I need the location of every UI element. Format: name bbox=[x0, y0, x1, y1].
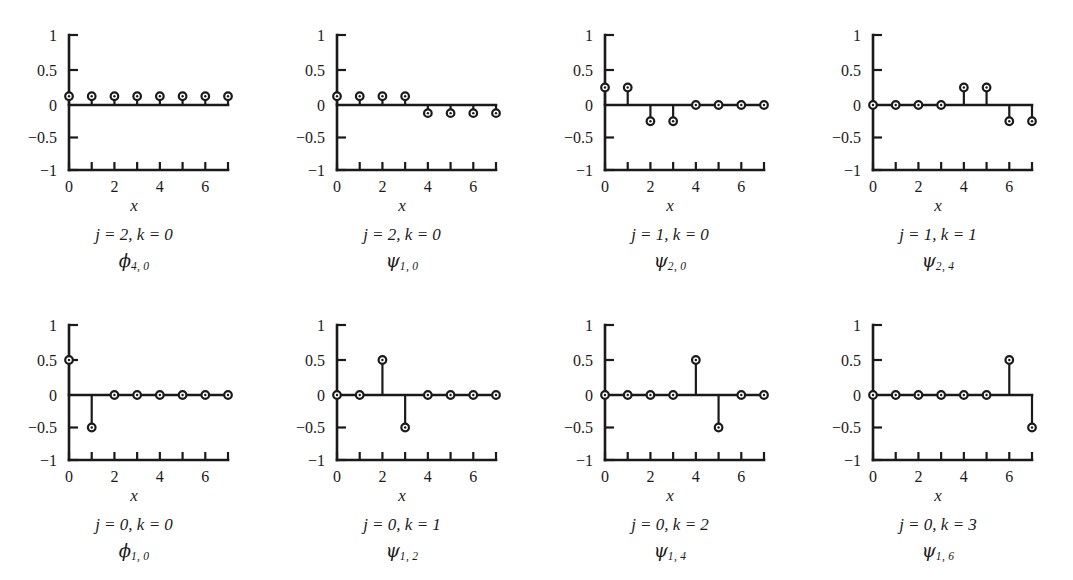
x-tick-label: 4 bbox=[156, 468, 164, 485]
stem-plot-panel: −1−0.500.510246xj = 2, k = 0ψ1, 0 bbox=[268, 0, 536, 290]
stem-plot-panel: −1−0.500.510246xj = 2, k = 0ϕ4, 0 bbox=[0, 0, 268, 290]
data-point-center bbox=[649, 120, 651, 122]
caption-greek-symbol: ϕ bbox=[119, 250, 131, 271]
y-tick-label: 1 bbox=[585, 317, 593, 334]
caption-subscript: 2, 0 bbox=[668, 260, 686, 272]
caption-scale-index: j = 2, k = 0 bbox=[0, 225, 268, 245]
data-point-center bbox=[227, 95, 229, 97]
data-point-center bbox=[91, 426, 93, 428]
caption-subscript: 1, 0 bbox=[400, 260, 418, 272]
data-point-center bbox=[68, 359, 70, 361]
stem-plot-panel: −1−0.500.510246xj = 1, k = 0ψ2, 0 bbox=[536, 0, 804, 290]
x-tick-label: 0 bbox=[601, 178, 609, 195]
x-tick-label: 6 bbox=[1005, 468, 1013, 485]
data-point-center bbox=[672, 394, 674, 396]
data-point-center bbox=[649, 394, 651, 396]
data-point-center bbox=[940, 104, 942, 106]
panel-caption: xj = 0, k = 1ψ1, 2 bbox=[268, 486, 536, 564]
caption-subscript: 1, 2 bbox=[400, 550, 418, 562]
y-tick-label: −0.5 bbox=[28, 419, 57, 436]
x-tick-label: 0 bbox=[333, 178, 341, 195]
y-tick-label: 0 bbox=[853, 97, 861, 114]
data-point-center bbox=[963, 394, 965, 396]
x-tick-label: 4 bbox=[960, 468, 968, 485]
x-axis-label: x bbox=[398, 196, 406, 215]
data-point-center bbox=[495, 394, 497, 396]
stem-plot-panel: −1−0.500.510246xj = 0, k = 0ϕ1, 0 bbox=[0, 290, 268, 580]
data-point-center bbox=[472, 112, 474, 114]
data-point-center bbox=[449, 394, 451, 396]
caption-scale-index: j = 2, k = 0 bbox=[268, 225, 536, 245]
y-tick-label: 0 bbox=[853, 387, 861, 404]
caption-subscript: 1, 0 bbox=[131, 550, 149, 562]
caption-function-name: ψ1, 2 bbox=[268, 540, 536, 564]
y-tick-label: 0.5 bbox=[305, 352, 325, 369]
data-point-center bbox=[204, 95, 206, 97]
x-tick-label: 6 bbox=[737, 178, 745, 195]
y-tick-label: 1 bbox=[585, 27, 593, 44]
y-tick-label: −0.5 bbox=[564, 419, 593, 436]
data-point-center bbox=[159, 95, 161, 97]
data-point-center bbox=[695, 104, 697, 106]
data-point-center bbox=[917, 394, 919, 396]
caption-function-name: ψ1, 0 bbox=[268, 250, 536, 274]
caption-greek-symbol: ψ bbox=[654, 250, 668, 271]
data-point-center bbox=[627, 394, 629, 396]
panel-caption: xj = 2, k = 0ϕ4, 0 bbox=[0, 196, 268, 274]
stem-plot-panel: −1−0.500.510246xj = 0, k = 3ψ1, 6 bbox=[804, 290, 1072, 580]
panel-caption: xj = 0, k = 2ψ1, 4 bbox=[536, 486, 804, 564]
x-tick-label: 2 bbox=[646, 468, 654, 485]
y-tick-label: −0.5 bbox=[296, 129, 325, 146]
panel-caption: xj = 2, k = 0ψ1, 0 bbox=[268, 196, 536, 274]
x-tick-label: 6 bbox=[201, 468, 209, 485]
x-tick-label: 0 bbox=[333, 468, 341, 485]
caption-function-name: ϕ1, 0 bbox=[0, 540, 268, 564]
y-tick-label: −1 bbox=[576, 162, 593, 179]
y-tick-label: 1 bbox=[853, 317, 861, 334]
x-tick-label: 2 bbox=[378, 468, 386, 485]
wavelet-basis-figure: −1−0.500.510246xj = 2, k = 0ϕ4, 0−1−0.50… bbox=[0, 0, 1073, 580]
x-tick-label: 6 bbox=[201, 178, 209, 195]
data-point-center bbox=[336, 95, 338, 97]
stem-plot: −1−0.500.510246 bbox=[0, 0, 268, 200]
x-axis-label: x bbox=[130, 486, 138, 505]
data-point-center bbox=[740, 394, 742, 396]
y-tick-label: −0.5 bbox=[28, 129, 57, 146]
y-tick-label: 0.5 bbox=[37, 62, 57, 79]
y-tick-label: −0.5 bbox=[564, 129, 593, 146]
data-point-center bbox=[159, 394, 161, 396]
data-point-center bbox=[963, 86, 965, 88]
data-point-center bbox=[895, 104, 897, 106]
x-tick-label: 4 bbox=[424, 468, 432, 485]
caption-scale-index: j = 0, k = 0 bbox=[0, 515, 268, 535]
stem-plot-panel: −1−0.500.510246xj = 1, k = 1ψ2, 4 bbox=[804, 0, 1072, 290]
x-axis-label: x bbox=[666, 196, 674, 215]
data-point-center bbox=[495, 112, 497, 114]
data-point-center bbox=[113, 394, 115, 396]
caption-greek-symbol: ϕ bbox=[119, 540, 131, 561]
data-point-center bbox=[204, 394, 206, 396]
x-tick-label: 6 bbox=[469, 178, 477, 195]
caption-scale-index: j = 1, k = 1 bbox=[804, 225, 1072, 245]
caption-greek-symbol: ψ bbox=[922, 540, 936, 561]
y-tick-label: 1 bbox=[317, 317, 325, 334]
y-tick-label: −0.5 bbox=[296, 419, 325, 436]
x-tick-label: 4 bbox=[692, 178, 700, 195]
data-point-center bbox=[604, 394, 606, 396]
x-tick-label: 0 bbox=[65, 468, 73, 485]
data-point-center bbox=[740, 104, 742, 106]
x-axis-label: x bbox=[130, 196, 138, 215]
caption-subscript: 2, 4 bbox=[936, 260, 954, 272]
stem-plot: −1−0.500.510246 bbox=[0, 290, 268, 490]
data-point-center bbox=[427, 112, 429, 114]
x-tick-label: 6 bbox=[469, 468, 477, 485]
x-tick-label: 2 bbox=[914, 178, 922, 195]
panel-caption: xj = 0, k = 3ψ1, 6 bbox=[804, 486, 1072, 564]
caption-function-name: ψ2, 4 bbox=[804, 250, 1072, 274]
data-point-center bbox=[985, 86, 987, 88]
y-tick-label: 1 bbox=[49, 317, 57, 334]
y-tick-label: 0 bbox=[49, 387, 57, 404]
data-point-center bbox=[985, 394, 987, 396]
data-point-center bbox=[427, 394, 429, 396]
data-point-center bbox=[872, 104, 874, 106]
